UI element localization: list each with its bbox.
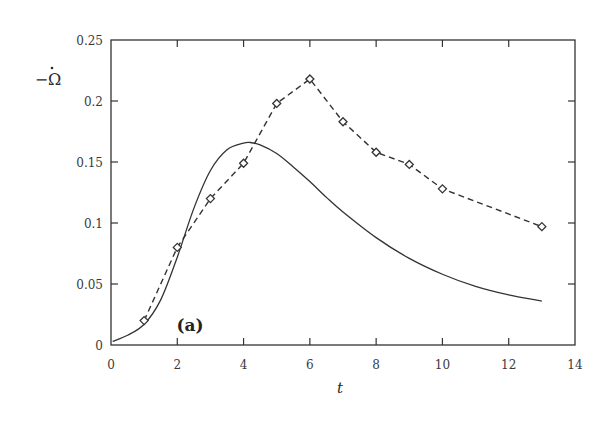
y-tick-label: 0.25	[76, 34, 103, 48]
x-tick-label: 6	[306, 358, 314, 372]
y-axis-ticks: 00.050.10.150.20.25	[76, 34, 575, 353]
diamond-marker	[140, 317, 148, 325]
y-tick-label: 0.1	[84, 217, 103, 231]
plot-border	[111, 40, 575, 345]
y-axis-label: −Ω	[35, 70, 62, 89]
x-axis-label: t	[337, 379, 344, 397]
plot-frame	[111, 40, 575, 345]
diamond-marker	[538, 223, 546, 231]
x-tick-label: 10	[435, 358, 450, 372]
y-tick-label: 0	[95, 339, 103, 353]
series-layer	[113, 75, 546, 341]
x-tick-label: 14	[567, 358, 583, 372]
x-tick-label: 12	[501, 358, 516, 372]
chart: 02468101214 00.050.10.150.20.25 t −Ω (a)	[0, 0, 613, 434]
solid-curve	[113, 142, 542, 341]
y-tick-label: 0.15	[76, 156, 103, 170]
x-tick-label: 0	[107, 358, 115, 372]
x-tick-label: 4	[240, 358, 248, 372]
y-tick-label: 0.2	[84, 95, 103, 109]
panel-label: (a)	[176, 315, 203, 335]
dashed-curve	[144, 79, 542, 321]
x-tick-label: 8	[372, 358, 380, 372]
diamond-marker	[438, 185, 446, 193]
x-tick-label: 2	[173, 358, 181, 372]
omega-dot	[51, 67, 54, 70]
y-tick-label: 0.05	[76, 278, 103, 292]
